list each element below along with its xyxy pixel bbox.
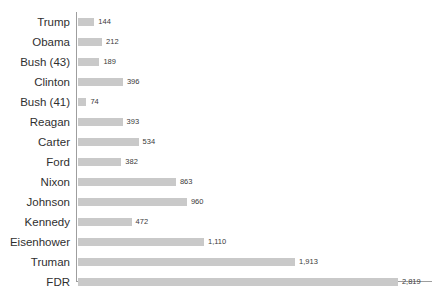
value-label-obama: 212 [106,38,119,46]
category-label-reagan: Reagan [0,112,70,132]
value-label-johnson: 960 [191,198,204,206]
bar-group-nixon: 863 [78,172,192,192]
bar-group-carter: 534 [78,132,155,152]
table-row: Obama 212 [0,32,442,52]
value-label-reagan: 393 [127,118,140,126]
value-label-nixon: 863 [180,178,193,186]
category-label-johnson: Johnson [0,192,70,212]
table-row: Trump 144 [0,12,442,32]
category-label-fdr: FDR [0,272,70,292]
value-label-bush-43: 189 [103,58,116,66]
value-label-fdr: 2,819 [402,278,421,286]
table-row: Eisenhower 1,110 [0,232,442,252]
bar-obama [78,38,102,46]
bar-carter [78,138,139,146]
bar-group-obama: 212 [78,32,119,52]
category-label-eisenhower: Eisenhower [0,232,70,252]
bar-group-johnson: 960 [78,192,203,212]
bar-bush-43 [78,58,99,66]
bar-group-ford: 382 [78,152,138,172]
bar-reagan [78,118,123,126]
bar-nixon [78,178,176,186]
category-label-carter: Carter [0,132,70,152]
bar-group-bush-43: 189 [78,52,116,72]
bar-group-truman: 1,913 [78,252,318,272]
table-row: Bush (43) 189 [0,52,442,72]
bar-clinton [78,78,123,86]
table-row: Kennedy 472 [0,212,442,232]
bar-trump [78,18,94,26]
table-row: FDR 2,819 [0,272,442,292]
value-label-ford: 382 [125,158,138,166]
bar-ford [78,158,121,166]
value-label-trump: 144 [98,18,111,26]
bar-bush-41 [78,98,86,106]
value-label-bush-41: 74 [90,98,98,106]
table-row: Clinton 396 [0,72,442,92]
bar-eisenhower [78,238,204,246]
value-label-kennedy: 472 [136,218,149,226]
value-label-truman: 1,913 [299,258,318,266]
table-row: Nixon 863 [0,172,442,192]
bar-group-kennedy: 472 [78,212,148,232]
category-label-bush-43: Bush (43) [0,52,70,72]
bar-group-clinton: 396 [78,72,139,92]
category-label-trump: Trump [0,12,70,32]
category-label-clinton: Clinton [0,72,70,92]
table-row: Ford 382 [0,152,442,172]
table-row: Johnson 960 [0,192,442,212]
category-label-nixon: Nixon [0,172,70,192]
bar-johnson [78,198,187,206]
bar-chart: Trump 144 Obama 212 Bush (43) 189 Clinto… [0,0,442,298]
table-row: Bush (41) 74 [0,92,442,112]
category-label-ford: Ford [0,152,70,172]
bar-group-eisenhower: 1,110 [78,232,226,252]
bar-truman [78,258,295,266]
bar-kennedy [78,218,132,226]
category-label-truman: Truman [0,252,70,272]
value-label-carter: 534 [143,138,156,146]
bar-group-trump: 144 [78,12,111,32]
category-label-kennedy: Kennedy [0,212,70,232]
table-row: Carter 534 [0,132,442,152]
bar-fdr [78,278,398,286]
bar-group-fdr: 2,819 [78,272,421,292]
value-label-clinton: 396 [127,78,140,86]
category-label-obama: Obama [0,32,70,52]
table-row: Reagan 393 [0,112,442,132]
bar-rows: Trump 144 Obama 212 Bush (43) 189 Clinto… [0,12,442,282]
category-label-bush-41: Bush (41) [0,92,70,112]
value-label-eisenhower: 1,110 [208,238,226,246]
bar-group-bush-41: 74 [78,92,99,112]
table-row: Truman 1,913 [0,252,442,272]
bar-group-reagan: 393 [78,112,139,132]
